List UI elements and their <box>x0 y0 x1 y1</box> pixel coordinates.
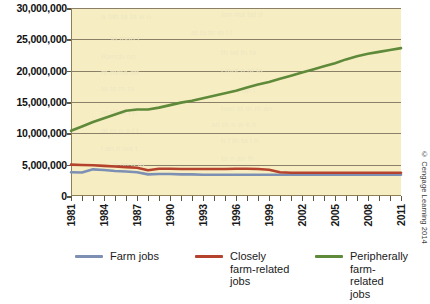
x-axis-tick <box>335 196 336 201</box>
x-axis-tick <box>269 196 270 201</box>
legend-color-swatch <box>75 255 103 258</box>
x-axis-tick <box>379 196 380 201</box>
x-axis-tick <box>313 196 314 201</box>
y-axis-tick-label: 25,000,000 <box>16 33 67 45</box>
x-axis-tick <box>159 196 160 201</box>
x-axis-tick <box>203 196 204 201</box>
x-axis-tick <box>170 196 171 201</box>
x-axis-tick <box>346 196 347 201</box>
legend-item: Closely farm-related jobs <box>195 250 289 288</box>
x-axis-tick-label: 2011 <box>395 204 407 226</box>
legend-label: Closely farm-related jobs <box>230 250 289 288</box>
x-axis-tick-label: 1981 <box>65 204 77 227</box>
x-axis-tick <box>280 196 281 201</box>
x-axis-tick <box>291 196 292 201</box>
x-axis-tick <box>181 196 182 201</box>
x-axis-tick <box>258 196 259 201</box>
y-axis: 05,000,00010,000,00015,000,00020,000,000… <box>0 8 67 196</box>
y-axis-tick-label: 5,000,000 <box>22 159 67 171</box>
copyright-credit: © Cengage Learning 2014 <box>420 150 429 244</box>
x-axis-tick <box>357 196 358 201</box>
series-lines <box>71 8 401 196</box>
x-axis-tick <box>324 196 325 201</box>
legend-label: Farm jobs <box>110 250 159 263</box>
x-axis-tick-label: 1987 <box>131 204 143 227</box>
figure-line-chart: 05,000,00010,000,00015,000,00020,000,000… <box>0 0 430 304</box>
legend-item: Peripherally farm-related jobs <box>315 250 408 300</box>
x-axis-tick-label: 2008 <box>362 204 374 227</box>
x-axis-tick-label: 1984 <box>98 204 110 227</box>
y-axis-tick-label: 10,000,000 <box>16 127 67 139</box>
x-axis-tick-label: 2005 <box>329 204 341 227</box>
legend-item: Farm jobs <box>75 250 159 263</box>
x-axis-tick <box>82 196 83 201</box>
legend-color-swatch <box>315 255 343 258</box>
y-axis-tick-label: 30,000,000 <box>16 2 67 14</box>
x-axis-tick <box>302 196 303 201</box>
x-axis-tick <box>401 196 402 201</box>
legend-label: Peripherally farm-related jobs <box>350 250 408 300</box>
plot-area: a tab ta ta w nlan ma tal rlla than tat … <box>71 8 401 196</box>
x-axis-tick <box>104 196 105 201</box>
x-axis-tick <box>225 196 226 201</box>
y-axis-tick-label: 15,000,000 <box>16 96 67 108</box>
x-axis-tick <box>192 196 193 201</box>
x-axis-tick <box>126 196 127 201</box>
x-axis: 1981198419871990199319961999200220052008… <box>71 196 406 256</box>
x-axis-tick-label: 1999 <box>263 204 275 227</box>
x-axis-tick-label: 1996 <box>230 204 242 227</box>
y-axis-tick-label: 20,000,000 <box>16 65 67 77</box>
x-axis-tick <box>368 196 369 201</box>
x-axis-tick <box>137 196 138 201</box>
series-line <box>71 48 401 131</box>
x-axis-tick <box>93 196 94 201</box>
x-axis-tick <box>390 196 391 201</box>
x-axis-tick-label: 2002 <box>296 204 308 227</box>
x-axis-tick-label: 1990 <box>164 204 176 227</box>
x-axis-tick <box>148 196 149 201</box>
x-axis-tick <box>247 196 248 201</box>
x-axis-tick-label: 1993 <box>197 204 209 227</box>
x-axis-tick <box>115 196 116 201</box>
legend-color-swatch <box>195 255 223 258</box>
x-axis-tick <box>214 196 215 201</box>
x-axis-tick <box>236 196 237 201</box>
x-axis-tick <box>71 196 72 201</box>
clipped-caption <box>0 296 430 304</box>
chart-legend: Farm jobsClosely farm-related jobsPeriph… <box>75 250 405 296</box>
